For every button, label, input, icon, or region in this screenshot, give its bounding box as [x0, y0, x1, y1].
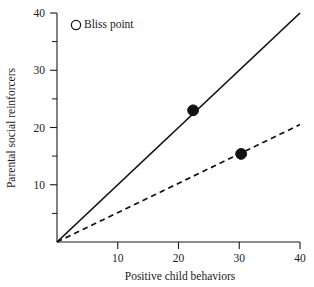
- chart-canvas: 40 30 20 10 10 20 30 40 Positive child b…: [0, 0, 314, 287]
- x-axis-tick-labels: 10 20 30 40: [112, 252, 306, 264]
- x-tick-label-30: 30: [234, 252, 246, 264]
- y-tick-label-40: 40: [34, 7, 46, 19]
- y-tick-label-30: 30: [34, 64, 46, 76]
- legend: Bliss point: [71, 18, 134, 31]
- x-axis-title: Positive child behaviors: [125, 270, 236, 282]
- x-tick-label-20: 20: [173, 252, 185, 264]
- x-tick-label-10: 10: [112, 252, 124, 264]
- series-matching-line: [57, 13, 300, 242]
- y-axis-title: Parental social reinforcers: [5, 67, 17, 188]
- x-axis-major-ticks: [118, 242, 300, 249]
- data-point-bliss-lower: [236, 149, 247, 160]
- data-series-group: [57, 13, 300, 242]
- data-point-bliss-upper: [188, 105, 199, 116]
- y-tick-label-10: 10: [34, 179, 46, 191]
- y-tick-label-20: 20: [34, 122, 46, 134]
- x-tick-label-40: 40: [294, 252, 306, 264]
- legend-label-bliss-point: Bliss point: [84, 18, 134, 31]
- chart-figure: 40 30 20 10 10 20 30 40 Positive child b…: [0, 0, 314, 287]
- legend-open-circle-icon: [71, 20, 80, 29]
- y-axis-tick-labels: 40 30 20 10: [34, 7, 46, 191]
- series-obtained-line: [57, 125, 300, 242]
- data-points-group: [188, 105, 247, 159]
